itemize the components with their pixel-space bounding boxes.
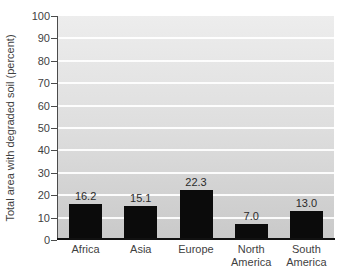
bar-value-label: 16.2 — [61, 190, 111, 203]
y-tick-label: 90 — [18, 32, 50, 44]
bar-africa — [69, 204, 102, 240]
gridline — [58, 60, 334, 62]
y-tick-label: 30 — [18, 167, 50, 179]
y-tick-label: 70 — [18, 77, 50, 89]
bar-value-label: 15.1 — [116, 192, 166, 205]
bar-value-label: 13.0 — [281, 197, 331, 210]
gridline — [58, 105, 334, 107]
y-tick-label: 60 — [18, 100, 50, 112]
y-tick-label: 50 — [18, 122, 50, 134]
y-axis-title: Total area with degraded soil (percent) — [4, 16, 18, 240]
y-tick-label: 40 — [18, 144, 50, 156]
gridline — [58, 82, 334, 84]
y-tick-label: 20 — [18, 189, 50, 201]
category-label: Europe — [166, 243, 226, 256]
y-tick-label: 0 — [18, 234, 50, 246]
y-tick-label: 80 — [18, 55, 50, 67]
y-tick-label: 100 — [18, 10, 50, 22]
category-label: Asia — [111, 243, 171, 256]
gridline — [58, 37, 334, 39]
gridline — [58, 149, 334, 151]
gridline — [58, 172, 334, 174]
y-tick-mark — [51, 240, 57, 241]
degraded-soil-bar-chart: Total area with degraded soil (percent) … — [0, 0, 342, 275]
category-label: Africa — [56, 243, 116, 256]
bar-south-america — [290, 211, 323, 240]
bar-asia — [124, 206, 157, 240]
gridline — [58, 127, 334, 129]
category-label: South America — [276, 243, 336, 269]
bar-europe — [180, 190, 213, 240]
category-label: North America — [221, 243, 281, 269]
x-axis-line — [57, 238, 335, 240]
y-tick-label: 10 — [18, 212, 50, 224]
bar-value-label: 7.0 — [226, 210, 276, 223]
y-axis-line — [57, 16, 58, 240]
bar-value-label: 22.3 — [171, 176, 221, 189]
